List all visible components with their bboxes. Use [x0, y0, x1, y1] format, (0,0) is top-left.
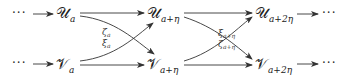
ellipsis-top-left: ···	[12, 6, 26, 20]
node-U-a+2eta: 𝒰a+2η	[255, 6, 293, 27]
node-V-a+eta: 𝒱a+η	[147, 57, 178, 75]
arrow-Ua-Va+n	[80, 16, 154, 54]
node-symbol: 𝒱	[56, 55, 69, 73]
node-subscript: a	[70, 14, 75, 24]
node-symbol: 𝒰	[56, 4, 70, 22]
node-U-a: 𝒰a	[56, 6, 75, 27]
node-subscript: a+η	[161, 14, 179, 24]
label-subscript: a	[107, 31, 111, 38]
node-symbol: 𝒰	[255, 4, 269, 22]
arrow-Va-Ua+n	[80, 23, 153, 61]
node-symbol: 𝒱	[147, 55, 160, 73]
node-symbol: 𝒰	[147, 4, 161, 22]
node-U-a+eta: 𝒰a+η	[147, 6, 179, 27]
ellipsis-bottom-left: ···	[12, 56, 26, 70]
node-subscript: a+η	[160, 65, 178, 75]
node-symbol: 𝒱	[255, 55, 268, 73]
node-subscript: a+2η	[269, 14, 293, 24]
node-subscript: a	[69, 65, 74, 75]
node-subscript: a+2η	[268, 65, 292, 75]
ellipsis-bottom-right: ···	[322, 56, 336, 70]
node-V-a: 𝒱a	[56, 57, 74, 75]
ellipsis-top-right: ···	[322, 6, 336, 20]
label-xi-a: ξa	[102, 38, 111, 51]
label-zeta-a+eta: ζa+η	[218, 39, 235, 52]
label-subscript: a	[107, 42, 111, 49]
label-subscript: a+η	[223, 43, 235, 50]
label-subscript: a+η	[223, 32, 235, 39]
node-V-a+2eta: 𝒱a+2η	[255, 57, 292, 75]
